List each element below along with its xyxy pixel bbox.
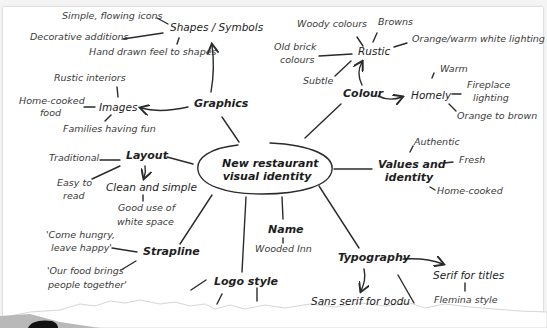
leaf-old-brick: Old brick — [274, 42, 316, 53]
values-line-1: Values and — [378, 159, 440, 172]
leaf-home-cooked: Home-cooked — [19, 96, 85, 107]
leaf-easy-to: Easy to — [57, 178, 92, 189]
leaf-lighting: lighting — [473, 93, 509, 104]
node-rustic: Rustic — [358, 45, 390, 57]
center-line-2: visual identity — [222, 171, 312, 184]
node-values-identity: Values and identity — [378, 159, 440, 184]
leaf-white-space: white space — [117, 217, 174, 228]
leaf-wooded-inn: Wooded Inn — [255, 244, 312, 255]
leaf-simple-flowing-icons: Simple, flowing icons — [62, 11, 163, 22]
node-sans-serif-body: Sans serif for bodu — [311, 295, 410, 307]
center-line-1: New restaurant — [222, 158, 312, 171]
leaf-flemina-style: Flemina style — [434, 295, 498, 306]
values-line-2: identity — [378, 172, 440, 185]
leaf-warm: Warm — [440, 64, 468, 75]
node-layout: Layout — [126, 150, 168, 163]
node-shapes-symbols: Shapes / Symbols — [170, 21, 263, 33]
leaf-fireplace: Fireplace — [467, 80, 510, 91]
leaf-decorative-additions: Decorative additions — [30, 32, 128, 43]
node-strapline: Strapline — [143, 246, 200, 259]
leaf-our-food-brings: 'Our food brings — [47, 266, 124, 277]
leaf-hand-drawn-shapes: Hand drawn feel to shapes — [89, 47, 216, 58]
center-topic: New restaurant visual identity — [222, 158, 312, 183]
leaf-browns: Browns — [378, 17, 413, 28]
leaf-subtle: Subtle — [303, 76, 333, 87]
leaf-home-cooked-values: Home-cooked — [437, 186, 503, 197]
leaf-authentic: Authentic — [414, 137, 460, 148]
leaf-families-having-fun: Families having fun — [63, 124, 156, 135]
node-typography: Typography — [338, 252, 410, 265]
leaf-food: food — [40, 108, 61, 119]
leaf-orange-to-brown: Orange to brown — [457, 111, 537, 122]
leaf-fresh: Fresh — [459, 155, 485, 166]
node-name: Name — [268, 224, 304, 237]
node-serif-for-titles: Serif for titles — [433, 269, 504, 281]
leaf-woody-colours: Woody colours — [297, 19, 367, 30]
leaf-people-together: people together' — [48, 280, 127, 291]
node-colour: Colour — [343, 88, 383, 101]
leaf-read: read — [63, 191, 85, 202]
leaf-good-use-of: Good use of — [118, 203, 175, 214]
node-images: Images — [99, 101, 137, 113]
leaf-come-hungry: 'Come hungry, — [46, 230, 115, 241]
leaf-orange-warm-lighting: Orange/warm white lighting — [412, 34, 545, 45]
leaf-colours: colours — [280, 55, 314, 66]
node-homely: Homely — [411, 89, 451, 101]
leaf-traditional: Traditional — [49, 153, 99, 164]
node-logo-style: Logo style — [214, 276, 278, 289]
node-clean-and-simple: Clean and simple — [106, 181, 197, 193]
leaf-leave-happy: leave happy' — [51, 243, 112, 254]
leaf-rustic-interiors: Rustic interiors — [54, 73, 126, 84]
node-graphics: Graphics — [194, 98, 248, 111]
